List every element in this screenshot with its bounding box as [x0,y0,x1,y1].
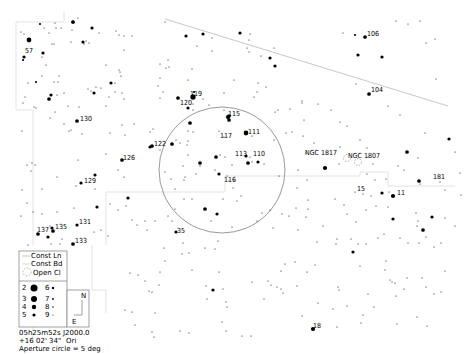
star [211,37,212,38]
mag-dot-9 [53,315,54,316]
star [164,260,165,261]
star [68,130,69,131]
star [399,237,400,238]
star [323,166,327,170]
star [71,20,74,23]
star [131,219,132,220]
star [51,43,52,44]
star [100,229,101,230]
star-label: 129 [84,177,96,185]
star [71,29,72,30]
star [338,289,339,290]
star [159,149,160,150]
star-label: 111 [248,128,260,136]
star [233,79,234,80]
star [192,103,193,104]
star [337,286,338,287]
star [346,125,347,126]
star [257,82,258,83]
star [238,31,241,34]
aperture-label: Aperture circle = 5 deg [19,345,101,353]
star [384,269,385,270]
star [316,241,317,242]
star [236,200,237,201]
star [149,131,150,132]
star-chart[interactable]: 57106104119120115130117111122113110126NG… [0,0,468,354]
star-label: 119 [190,90,202,98]
star [460,194,461,195]
star [133,123,134,124]
star [47,97,51,101]
star [417,157,418,158]
star [217,172,220,175]
star [187,79,188,80]
star [263,298,264,299]
star [306,271,307,272]
star [75,119,79,123]
star [241,335,242,336]
compass-east: E [72,318,76,326]
star [73,207,74,208]
star [359,265,360,266]
coord-dec: +16 02' 34" [19,337,61,345]
star [87,88,88,89]
star [282,292,283,293]
star [288,215,289,216]
mag-label-7: 7 [45,295,49,303]
star [49,225,50,226]
star [357,243,358,244]
star [41,213,42,214]
star [388,191,389,192]
star [195,173,196,174]
star [338,163,339,164]
star [206,298,207,299]
star [94,188,95,189]
star [296,285,297,286]
star [152,128,153,129]
star [211,50,212,51]
star [54,22,55,23]
star [377,237,378,238]
star [183,198,184,199]
star [214,169,215,170]
star [284,263,285,264]
star [129,272,130,273]
star [179,330,180,331]
star-label: 15 [357,185,365,193]
star [240,195,241,196]
star-label: 110 [253,150,265,158]
star [48,32,49,33]
star [263,163,264,164]
star [109,81,112,84]
star [49,117,50,118]
star [41,56,42,57]
star [211,288,214,291]
star [208,104,209,105]
star [154,220,155,221]
star [222,288,223,289]
star [339,121,340,122]
star [34,164,35,165]
star [124,134,125,135]
star [335,243,336,244]
star [41,188,42,189]
star-label: 116 [224,176,236,184]
star [281,213,282,214]
star [21,130,22,131]
star [426,325,427,326]
star [395,295,396,296]
star [291,131,292,132]
mag-dot-2 [31,285,38,292]
star [222,198,223,199]
star [131,35,132,36]
star [313,142,314,143]
star [158,284,159,285]
star [20,215,21,216]
star [355,83,356,84]
star [224,156,225,157]
mag-label-5: 5 [22,311,26,319]
star [289,108,290,109]
star [267,280,268,281]
star [167,59,168,60]
star [256,91,257,92]
